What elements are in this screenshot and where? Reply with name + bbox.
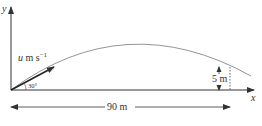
angle-label: 30°: [28, 82, 38, 89]
velocity-label: u m s−1: [18, 51, 48, 63]
velocity-exponent: −1: [40, 51, 48, 59]
velocity-unit: m s: [23, 52, 40, 63]
y-axis-label: y: [1, 3, 7, 14]
projectile-diagram: y x u m s−1 30° 5 m 90 m: [0, 0, 262, 126]
distance-label: 90 m: [107, 101, 128, 112]
height-label: 5 m: [212, 73, 228, 84]
x-axis-label: x: [250, 92, 256, 103]
angle-arc: [24, 83, 26, 90]
